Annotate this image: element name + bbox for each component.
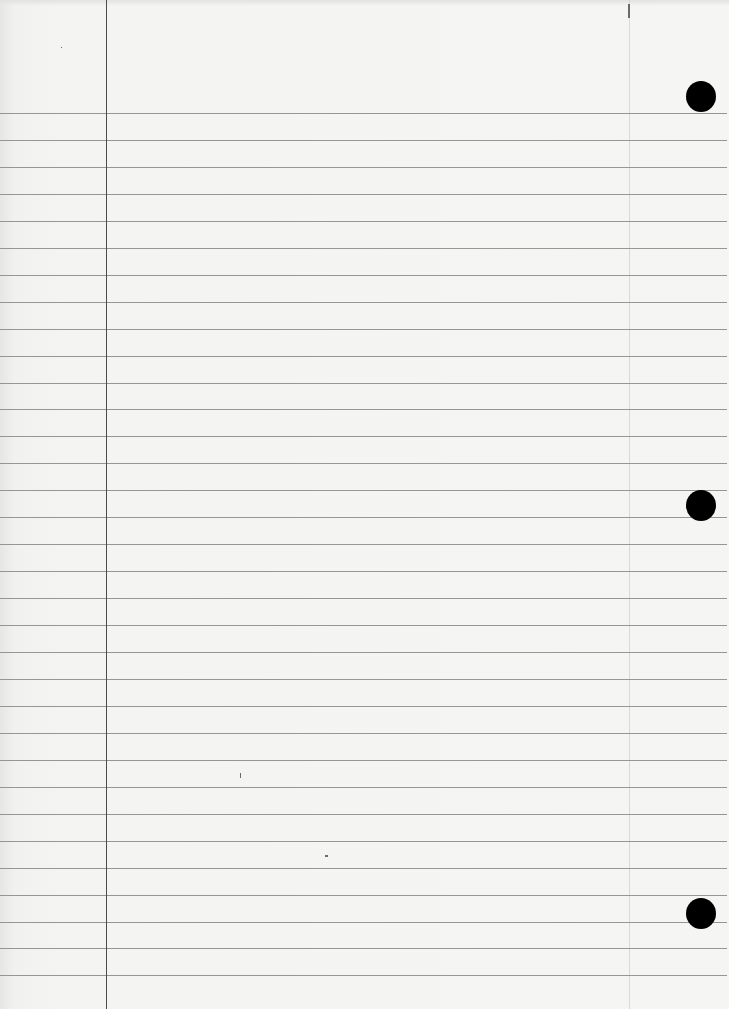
rule-line <box>0 463 727 464</box>
punch-hole <box>686 490 716 521</box>
rule-line <box>0 948 727 949</box>
rule-line <box>0 787 727 788</box>
rule-line <box>0 598 727 599</box>
rule-line <box>0 490 727 491</box>
punch-hole <box>686 898 716 929</box>
notebook-page <box>0 0 729 1009</box>
paper-top-shade <box>0 0 729 6</box>
rule-line <box>0 814 727 815</box>
rule-line <box>0 167 727 168</box>
rule-line <box>0 436 727 437</box>
rule-line <box>0 409 727 410</box>
rule-line <box>0 302 727 303</box>
rule-line <box>0 760 727 761</box>
rule-line <box>0 248 727 249</box>
rule-line <box>0 841 727 842</box>
rule-line <box>0 733 727 734</box>
rule-line <box>0 544 727 545</box>
rule-line <box>0 975 727 976</box>
paper-speck <box>61 47 62 48</box>
rule-line <box>0 652 727 653</box>
rule-line <box>0 383 727 384</box>
rule-line <box>0 140 727 141</box>
rule-line <box>0 706 727 707</box>
margin-line <box>106 0 107 1009</box>
rule-line <box>0 221 727 222</box>
rule-line <box>0 868 727 869</box>
rule-line <box>0 329 727 330</box>
rule-line <box>0 517 727 518</box>
rule-line <box>0 895 727 896</box>
paper-speck <box>325 855 328 857</box>
rule-line <box>0 356 727 357</box>
paper-crease <box>629 0 630 1009</box>
rule-line <box>0 275 727 276</box>
rule-line <box>0 194 727 195</box>
rule-line <box>0 679 727 680</box>
paper-speck <box>240 773 241 778</box>
rule-line <box>0 113 727 114</box>
rule-line <box>0 625 727 626</box>
rule-line <box>0 922 727 923</box>
punch-hole <box>686 81 716 112</box>
rule-line <box>0 571 727 572</box>
paper-speck <box>628 4 630 18</box>
